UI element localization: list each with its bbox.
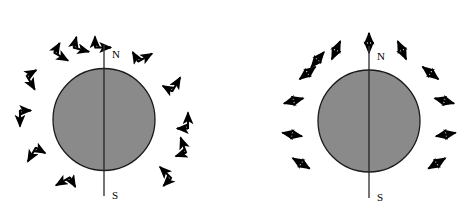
wave-polarization-figure: NSNS bbox=[0, 0, 465, 218]
radial-double-arrow bbox=[436, 133, 456, 136]
bent-double-arrow bbox=[20, 110, 31, 127]
bent-double-arrow bbox=[162, 72, 180, 92]
radial-double-arrow bbox=[284, 98, 303, 103]
bent-double-arrow bbox=[54, 43, 74, 61]
radial-double-arrow bbox=[293, 158, 310, 169]
bent-double-arrow bbox=[73, 37, 92, 52]
radial-double-arrow bbox=[300, 67, 316, 79]
bent-double-arrow bbox=[170, 138, 186, 157]
radial-double-arrow bbox=[428, 158, 445, 169]
radial-double-arrow bbox=[311, 52, 324, 67]
radial-double-arrow bbox=[332, 41, 340, 59]
north-pole-label: N bbox=[112, 48, 120, 60]
bent-double-arrow bbox=[26, 70, 44, 90]
radial-double-arrow bbox=[398, 41, 406, 59]
bent-double-arrow bbox=[177, 113, 188, 130]
radial-double-arrow bbox=[423, 67, 439, 79]
bent-double-arrow bbox=[56, 177, 76, 195]
figure-canvas: NSNS bbox=[0, 0, 465, 218]
bent-double-arrow bbox=[28, 147, 46, 167]
radial-double-arrow bbox=[282, 133, 302, 136]
tangential-polarization-diagram: NS bbox=[20, 37, 188, 202]
radial-polarization-diagram: NS bbox=[282, 33, 455, 203]
south-pole-label: S bbox=[377, 191, 383, 203]
radial-double-arrow bbox=[435, 98, 454, 103]
bent-double-arrow bbox=[94, 37, 111, 48]
north-pole-label: N bbox=[377, 50, 385, 62]
bent-double-arrow bbox=[152, 167, 172, 187]
south-pole-label: S bbox=[112, 189, 118, 201]
bent-double-arrow bbox=[132, 44, 152, 62]
